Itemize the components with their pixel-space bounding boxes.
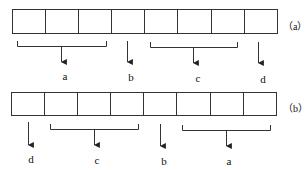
label-b-group-1: d	[28, 154, 34, 165]
label-b-group-4: a	[227, 156, 232, 167]
group-a-bracket-c	[151, 42, 238, 63]
label-a-group-4: d	[260, 74, 266, 85]
label-b-group-3: b	[161, 156, 167, 167]
group-b-bracket-c	[51, 124, 139, 145]
group-b-bracket-a	[183, 125, 271, 146]
cell-strip-b	[12, 93, 277, 116]
label-a-group-1: a	[63, 71, 68, 82]
panel-caption-b: （b）	[283, 104, 307, 114]
label-a-group-3: c	[196, 73, 201, 84]
panel-caption-a: （a）	[283, 22, 307, 32]
group-a-bracket-a	[18, 41, 107, 62]
label-b-group-2: c	[95, 155, 100, 166]
cell-strip-a	[13, 10, 278, 34]
diagram-canvas	[0, 0, 307, 170]
label-a-group-2: b	[128, 72, 134, 83]
